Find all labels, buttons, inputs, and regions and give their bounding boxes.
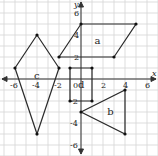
vertex-dot [68,66,71,69]
vertex-dot [79,110,82,113]
vertex-dot [90,99,93,102]
vertex-dot [112,55,115,58]
vertex-dot [57,55,60,58]
x-tick-label: -4 [32,81,40,90]
vertex-dot [35,132,38,135]
shape-label-b: b [107,106,113,117]
y-tick-label: -4 [70,119,78,128]
shape-label-d: d [78,79,85,90]
vertex-dot [79,22,82,25]
coordinate-plane: -6-4-20246-6-4-2246xy abcd [0,0,158,156]
vertex-dot [68,99,71,102]
shape-label-c: c [34,70,40,81]
y-axis-label: y [73,0,79,9]
shape-label-a: a [95,35,101,46]
x-tick-label: 2 [101,81,106,90]
x-tick-label: 6 [145,81,150,90]
y-axis-arrow-up-icon [79,2,84,7]
x-axis-label: x [152,69,157,78]
vertex-dot [90,66,93,69]
vertex-dot [57,66,60,69]
vertex-dot [123,132,126,135]
x-tick-label: -2 [54,81,62,90]
vertex-dot [35,33,38,36]
y-axis-arrow-down-icon [79,149,84,154]
vertex-dot [134,22,137,25]
x-axis-arrow-left-icon [2,77,7,82]
vertex-dot [123,88,126,91]
y-tick-label: -6 [70,141,78,150]
tick-labels: -6-4-20246-6-4-2246xy [10,0,157,150]
vertex-dot [13,66,16,69]
x-tick-label: -6 [10,81,18,90]
y-tick-label: 6 [74,9,79,18]
